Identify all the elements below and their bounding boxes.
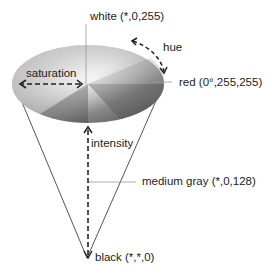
intensity-label: intensity [91,138,133,150]
red-label: red (0°,255,255) [179,77,262,89]
black-label: black (*,*,0) [95,252,154,264]
saturation-label: saturation [26,68,77,80]
hue-label: hue [163,42,182,54]
hue-saturation-disk [12,45,164,123]
hsi-cone-diagram [0,0,272,275]
medium-gray-label: medium gray (*,0,128) [142,176,256,188]
white-label: white (*,0,255) [90,11,164,23]
